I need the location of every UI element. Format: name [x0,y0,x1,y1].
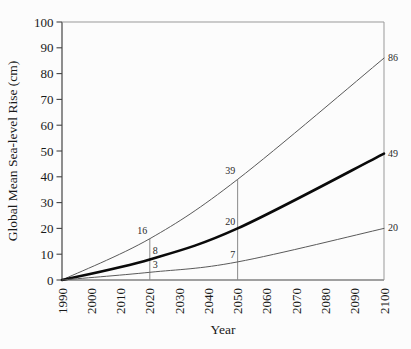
value-annotations: 168339207864920 [137,52,398,270]
value-label-7: 7 [230,249,235,260]
curve-mid-estimate [62,154,384,280]
y-tick-label: 80 [41,66,54,81]
projection-curves [62,58,384,280]
plot-border [62,22,384,280]
x-tick-label: 2020 [142,288,157,314]
sea-level-projection-figure: 0102030405060708090100 19902000201020202… [0,0,411,349]
y-tick-label: 0 [47,273,54,288]
y-tick-label: 10 [41,247,54,262]
value-label-20: 20 [388,222,398,233]
y-tick-label: 30 [41,195,54,210]
x-tick-label: 2090 [347,288,362,314]
value-label-3: 3 [153,259,158,270]
x-tick-label: 2030 [172,288,187,314]
x-tick-label: 2060 [259,288,274,314]
y-tick-label: 70 [41,92,54,107]
x-axis-title: Year [211,322,236,337]
y-tick-label: 50 [41,144,54,159]
x-tick-label: 2000 [84,288,99,314]
value-label-20: 20 [225,216,235,227]
y-axis-title: Global Mean Sea-level Rise (cm) [5,61,20,242]
x-tick-label: 2080 [318,288,333,314]
value-label-49: 49 [388,148,398,159]
x-tick-label: 2100 [377,288,392,314]
y-tick-label: 40 [41,169,54,184]
x-axis-ticks: 1990200020102020203020402050206020702080… [55,288,392,314]
x-tick-label: 1990 [55,288,70,314]
x-tick-label: 2040 [201,288,216,314]
year-marker-lines [150,179,238,280]
y-tick-label: 90 [41,40,54,55]
x-tick-label: 2050 [230,288,245,314]
value-label-86: 86 [388,52,398,63]
y-tick-label: 20 [41,221,54,236]
y-tick-label: 100 [34,15,54,30]
value-label-8: 8 [153,245,158,256]
y-axis-ticks: 0102030405060708090100 [34,15,62,288]
value-label-16: 16 [137,225,147,236]
value-label-39: 39 [225,165,235,176]
sea-level-chart: 0102030405060708090100 19902000201020202… [0,0,411,349]
y-tick-label: 60 [41,118,54,133]
x-tick-label: 2010 [113,288,128,314]
x-tick-label: 2070 [289,288,304,314]
curve-high-estimate [62,58,384,280]
